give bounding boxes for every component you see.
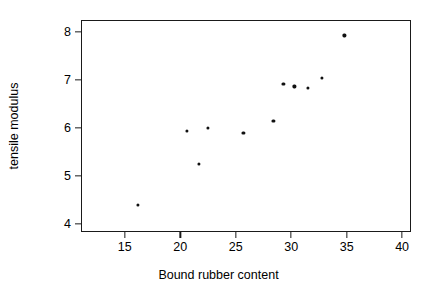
y-axis-tick-label: 5 — [56, 169, 71, 183]
y-axis-tick-label: 7 — [56, 73, 71, 87]
x-axis-tick-label: 15 — [118, 240, 132, 254]
data-point — [272, 119, 275, 122]
x-axis-label: Bound rubber content — [0, 268, 437, 282]
scatter-chart: 15202530354045678 Bound rubber content t… — [0, 0, 437, 297]
y-axis-tick — [75, 31, 81, 32]
x-axis-tick — [346, 232, 347, 238]
data-point-layer — [82, 21, 410, 231]
plot-area — [81, 20, 411, 232]
data-point — [136, 203, 139, 206]
y-axis-tick — [75, 79, 81, 80]
x-axis-tick-label: 30 — [284, 240, 298, 254]
y-axis-tick — [75, 127, 81, 128]
x-axis-tick-label: 20 — [173, 240, 187, 254]
y-axis-tick — [75, 175, 81, 176]
x-axis-tick-label: 40 — [395, 240, 409, 254]
y-axis-tick-label: 8 — [56, 25, 71, 39]
y-axis-tick-label: 4 — [56, 217, 71, 231]
y-axis-label: tensile modulus — [7, 83, 21, 170]
y-axis-tick-label: 6 — [56, 121, 71, 135]
x-axis-tick — [180, 232, 181, 238]
data-point — [206, 126, 209, 129]
data-point — [185, 129, 188, 132]
data-point — [197, 162, 200, 165]
x-axis-tick — [235, 232, 236, 238]
data-point — [293, 85, 296, 88]
x-axis-tick-label: 35 — [340, 240, 354, 254]
x-axis-tick — [291, 232, 292, 238]
data-point — [282, 82, 285, 85]
y-axis-tick — [75, 223, 81, 224]
x-axis-tick — [401, 232, 402, 238]
data-point — [343, 34, 346, 37]
data-point — [321, 76, 324, 79]
data-point — [306, 86, 309, 89]
x-axis-tick — [124, 232, 125, 238]
x-axis-tick-label: 25 — [229, 240, 243, 254]
data-point — [242, 131, 245, 134]
